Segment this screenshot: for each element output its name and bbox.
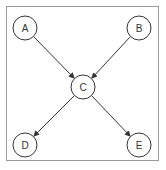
edge-a-to-c — [34, 37, 75, 79]
node-c-label: C — [79, 82, 86, 93]
node-a-label: A — [22, 23, 29, 34]
edge-c-to-e — [92, 96, 131, 137]
edge-b-to-c — [92, 37, 131, 79]
node-b: B — [127, 16, 151, 40]
edge-c-to-d — [34, 96, 75, 137]
node-e: E — [127, 133, 151, 157]
node-a: A — [13, 16, 37, 40]
node-e-label: E — [136, 140, 143, 151]
node-d: D — [13, 133, 37, 157]
node-d-label: D — [21, 140, 28, 151]
graph-canvas: A B C D E — [0, 0, 166, 170]
node-c: C — [71, 75, 95, 99]
node-b-label: B — [136, 23, 143, 34]
